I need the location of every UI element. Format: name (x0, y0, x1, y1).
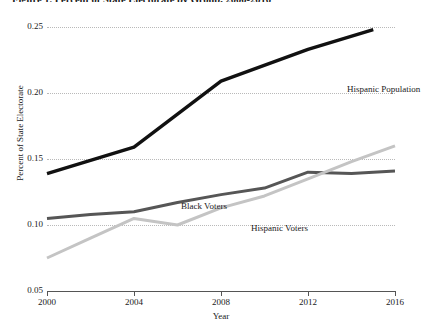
x-tick-mark (395, 291, 396, 296)
y-tick-label: 0.05 (9, 285, 43, 295)
figure-container: Figure 1. Percent of State Electorate by… (0, 0, 440, 332)
plot-area: Hispanic Population Black Voters Hispani… (47, 27, 395, 291)
y-tick-label: 0.25 (9, 21, 43, 31)
series-label-black-voters: Black Voters (181, 201, 227, 211)
x-tick-label: 2000 (24, 297, 70, 307)
x-tick-label: 2004 (111, 297, 157, 307)
x-tick-mark (308, 291, 309, 296)
series-line-hispanic-population (47, 30, 373, 174)
x-tick-mark (47, 291, 48, 296)
series-lines (47, 27, 395, 291)
x-tick-mark (221, 291, 222, 296)
y-tick-label: 0.10 (9, 219, 43, 229)
x-tick-mark (134, 291, 135, 296)
x-axis-title: Year (47, 311, 395, 321)
y-axis-title: Percent of State Electorate (15, 58, 25, 208)
x-tick-label: 2016 (372, 297, 418, 307)
series-label-hispanic-voters: Hispanic Voters (251, 223, 308, 233)
x-tick-label: 2012 (285, 297, 331, 307)
x-tick-label: 2008 (198, 297, 244, 307)
series-line-black-voters (47, 171, 395, 219)
figure-title: Figure 1. Percent of State Electorate by… (12, 0, 432, 2)
series-label-hispanic-population: Hispanic Population (347, 84, 420, 94)
